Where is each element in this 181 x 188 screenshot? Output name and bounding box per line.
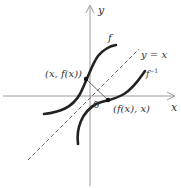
reflection-line-label: y = x xyxy=(140,49,167,60)
curve-f-label: f xyxy=(107,32,114,43)
superscript-minus-one: −1 xyxy=(149,67,158,74)
origin-label: 0 xyxy=(93,99,99,110)
curve-f-inverse-label: f−1 xyxy=(145,67,158,79)
point-fx-x-label: (f(x), x) xyxy=(113,103,150,114)
point-x-fx xyxy=(84,77,88,81)
point-fx-x xyxy=(106,98,110,102)
connector-segment xyxy=(86,79,108,100)
inverse-function-diagram: y x 0 f f−1 y = x (x, f(x)) (f(x), x) xyxy=(0,0,181,188)
curve-f xyxy=(44,45,116,114)
y-axis-label: y xyxy=(97,4,105,17)
point-x-fx-label: (x, f(x)) xyxy=(45,68,82,79)
x-axis-label: x xyxy=(171,101,178,114)
